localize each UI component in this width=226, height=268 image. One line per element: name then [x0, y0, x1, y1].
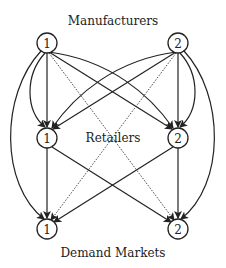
svg-text:2: 2 — [174, 223, 182, 237]
svg-text:1: 1 — [43, 223, 51, 237]
node-demand-market-2: 2 — [168, 219, 188, 239]
supply-chain-network-diagram: Manufacturers Retailers Demand Markets 1… — [0, 0, 226, 268]
manufacturers-label: Manufacturers — [68, 14, 159, 28]
svg-text:1: 1 — [43, 37, 51, 51]
edge-m1-r2 — [49, 52, 172, 129]
node-retailer-1: 1 — [37, 128, 57, 148]
node-demand-market-1: 1 — [37, 219, 57, 239]
svg-text:1: 1 — [43, 132, 51, 146]
edge-r1-d2 — [52, 147, 171, 222]
edge-m2-r1 — [53, 52, 176, 129]
svg-text:2: 2 — [174, 37, 182, 51]
edge-m2-r2-arc — [180, 53, 195, 127]
edge-r2-d1 — [54, 147, 173, 222]
node-manufacturer-1: 1 — [37, 33, 57, 53]
svg-text:2: 2 — [174, 132, 182, 146]
node-manufacturer-2: 2 — [168, 33, 188, 53]
edge-m1-r1-arc — [30, 53, 45, 127]
demand-markets-label: Demand Markets — [60, 246, 165, 260]
node-retailer-2: 2 — [168, 128, 188, 148]
